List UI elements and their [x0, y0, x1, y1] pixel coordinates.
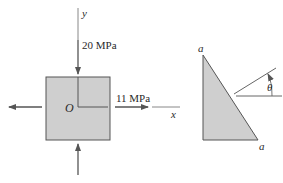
- x-axis-label: x: [170, 108, 176, 120]
- triangle-wedge: [203, 55, 258, 140]
- stress-diagram: y 20 MPa 11 MPa x O a a θ: [0, 0, 283, 183]
- y-axis-label: y: [81, 7, 87, 19]
- horizontal-stress-label: 11 MPa: [116, 92, 150, 104]
- inclined-section: a a θ: [198, 42, 282, 152]
- origin-label: O: [65, 101, 74, 115]
- vertical-stress-label: 20 MPa: [82, 39, 117, 51]
- bottom-vertex-label: a: [259, 140, 265, 152]
- stress-element: y 20 MPa 11 MPa x O: [9, 7, 180, 175]
- theta-label: θ: [267, 81, 273, 93]
- top-vertex-label: a: [198, 42, 204, 54]
